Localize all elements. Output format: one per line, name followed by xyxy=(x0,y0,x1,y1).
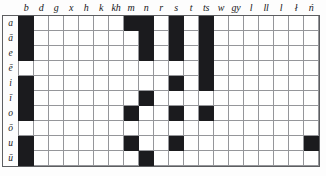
matrix-cell-aa-r xyxy=(154,31,169,46)
matrix-cell-ii-k xyxy=(94,91,109,106)
matrix-cell-a-kh xyxy=(109,16,124,31)
matrix-cell-a-m xyxy=(124,16,139,31)
matrix-cell-uu-l xyxy=(244,151,259,166)
matrix-cell-o-g xyxy=(49,106,64,121)
matrix-cell-aa-m xyxy=(124,31,139,46)
column-header-k: k xyxy=(94,0,109,16)
matrix-row-aa: ā xyxy=(3,31,319,46)
row-header-u: u xyxy=(3,136,19,151)
column-header-ll: ll xyxy=(259,0,274,16)
matrix-cell-a-g xyxy=(49,16,64,31)
matrix-cell-e-m xyxy=(124,46,139,61)
column-header-gy: gy xyxy=(229,0,244,16)
matrix-cell-ee-l2 xyxy=(274,61,289,76)
matrix-cell-o-l xyxy=(244,106,259,121)
matrix-cell-ee-nn xyxy=(304,61,319,76)
matrix-cell-ii-n xyxy=(139,91,154,106)
matrix-cell-oo-g xyxy=(49,121,64,136)
matrix-cell-u-h xyxy=(79,136,94,151)
matrix-cell-ii-w xyxy=(214,91,229,106)
matrix-cell-aa-ll xyxy=(259,31,274,46)
matrix-cell-aa-nn xyxy=(304,31,319,46)
row-header-ii: ī xyxy=(3,91,19,106)
matrix-cell-ii-kh xyxy=(109,91,124,106)
matrix-cell-o-r xyxy=(154,106,169,121)
matrix-cell-aa-h xyxy=(79,31,94,46)
column-header-h: h xyxy=(79,0,94,16)
matrix-cell-u-b xyxy=(19,136,34,151)
matrix-cell-i-kh xyxy=(109,76,124,91)
matrix-row-ii: ī xyxy=(3,91,319,106)
column-header-kh: kh xyxy=(109,0,124,16)
matrix-cell-uu-s xyxy=(169,151,184,166)
matrix-cell-oo-l2 xyxy=(274,121,289,136)
column-header-nn: ń xyxy=(304,0,319,16)
matrix-cell-ee-kh xyxy=(109,61,124,76)
matrix-cell-uu-r xyxy=(154,151,169,166)
matrix-cell-uu-gy xyxy=(229,151,244,166)
matrix-cell-i-s xyxy=(169,76,184,91)
matrix-cell-aa-gy xyxy=(229,31,244,46)
matrix-cell-uu-k xyxy=(94,151,109,166)
column-header-l: l xyxy=(244,0,259,16)
matrix-cell-o-nn xyxy=(304,106,319,121)
matrix-cell-a-w xyxy=(214,16,229,31)
matrix-cell-aa-w xyxy=(214,31,229,46)
matrix-cell-u-l xyxy=(244,136,259,151)
matrix-cell-i-ts xyxy=(199,76,214,91)
matrix-cell-u-g xyxy=(49,136,64,151)
matrix-cell-uu-t xyxy=(184,151,199,166)
matrix-cell-a-n xyxy=(139,16,154,31)
matrix-cell-u-x xyxy=(64,136,79,151)
matrix-cell-a-ll xyxy=(259,16,274,31)
matrix-cell-u-k xyxy=(94,136,109,151)
row-header-i: i xyxy=(3,76,19,91)
matrix-cell-i-w xyxy=(214,76,229,91)
matrix-cell-i-x xyxy=(64,76,79,91)
matrix-cell-oo-nn xyxy=(304,121,319,136)
column-header-ts: ts xyxy=(199,0,214,16)
matrix-cell-oo-ll xyxy=(259,121,274,136)
matrix-cell-o-n xyxy=(139,106,154,121)
matrix-cell-aa-lb xyxy=(289,31,304,46)
matrix-cell-oo-gy xyxy=(229,121,244,136)
matrix-cell-e-l xyxy=(244,46,259,61)
matrix-cell-a-l2 xyxy=(274,16,289,31)
matrix-cell-e-h xyxy=(79,46,94,61)
matrix-cell-aa-l2 xyxy=(274,31,289,46)
matrix-cell-a-r xyxy=(154,16,169,31)
matrix-cell-uu-h xyxy=(79,151,94,166)
matrix-cell-ii-b xyxy=(19,91,34,106)
matrix-cell-e-b xyxy=(19,46,34,61)
matrix-cell-u-w xyxy=(214,136,229,151)
matrix-cell-i-t xyxy=(184,76,199,91)
matrix-cell-u-r xyxy=(154,136,169,151)
matrix-cell-o-h xyxy=(79,106,94,121)
matrix-cell-i-lb xyxy=(289,76,304,91)
matrix-cell-uu-nn xyxy=(304,151,319,166)
matrix-cell-ii-ll xyxy=(259,91,274,106)
matrix-cell-uu-lb xyxy=(289,151,304,166)
matrix-cell-oo-l xyxy=(244,121,259,136)
matrix-cell-ee-ll xyxy=(259,61,274,76)
matrix-cell-uu-ll xyxy=(259,151,274,166)
matrix-cell-i-ll xyxy=(259,76,274,91)
matrix-cell-ee-t xyxy=(184,61,199,76)
matrix-cell-ii-lb xyxy=(289,91,304,106)
matrix-cell-aa-k xyxy=(94,31,109,46)
matrix-cell-u-n xyxy=(139,136,154,151)
matrix-cell-o-b xyxy=(19,106,34,121)
matrix-cell-ii-r xyxy=(154,91,169,106)
matrix-cell-aa-b xyxy=(19,31,34,46)
matrix-cell-i-nn xyxy=(304,76,319,91)
column-header-w: w xyxy=(214,0,229,16)
matrix-cell-e-nn xyxy=(304,46,319,61)
phoneme-matrix-table: bdgxhkkhmnrsttswgyllllłń aāeēiīoōuū xyxy=(3,0,319,166)
matrix-cell-u-nn xyxy=(304,136,319,151)
matrix-cell-e-ts xyxy=(199,46,214,61)
matrix-cell-oo-b xyxy=(19,121,34,136)
matrix-cell-o-t xyxy=(184,106,199,121)
matrix-cell-aa-kh xyxy=(109,31,124,46)
matrix-cell-ii-h xyxy=(79,91,94,106)
column-header-b: b xyxy=(19,0,34,16)
